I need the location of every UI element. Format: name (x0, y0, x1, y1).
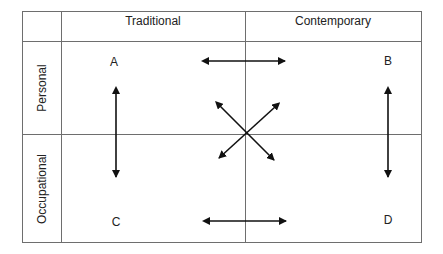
two-by-two-matrix-diagram: Traditional Contemporary Personal Occupa… (0, 0, 443, 254)
arrow-b-c-icon (219, 107, 275, 158)
arrows-layer (0, 0, 443, 254)
